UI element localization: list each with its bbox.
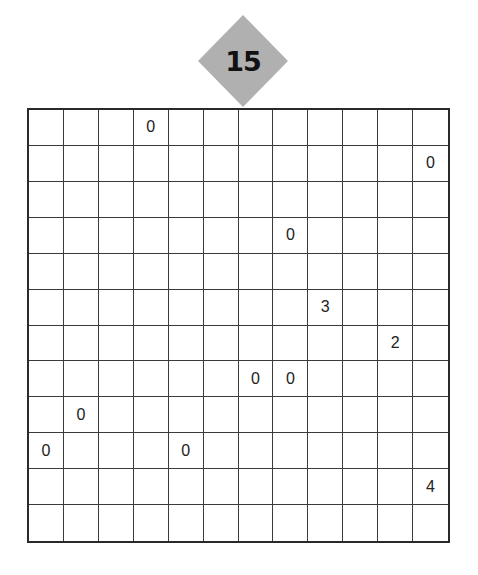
grid-cell[interactable]: [169, 254, 204, 290]
grid-cell[interactable]: [204, 254, 239, 290]
grid-cell[interactable]: [204, 397, 239, 433]
grid-cell[interactable]: [413, 182, 448, 218]
grid-cell[interactable]: [29, 254, 64, 290]
grid-cell[interactable]: [273, 469, 308, 505]
grid-cell[interactable]: [413, 505, 448, 541]
grid-cell[interactable]: [64, 326, 99, 362]
grid-cell[interactable]: [134, 146, 169, 182]
grid-cell[interactable]: [273, 254, 308, 290]
grid-cell[interactable]: [308, 110, 343, 146]
grid-cell[interactable]: [413, 218, 448, 254]
grid-cell[interactable]: [204, 290, 239, 326]
grid-cell[interactable]: [134, 254, 169, 290]
grid-cell[interactable]: [64, 433, 99, 469]
grid-cell[interactable]: [99, 326, 134, 362]
grid-cell[interactable]: [413, 397, 448, 433]
grid-cell[interactable]: [413, 290, 448, 326]
grid-cell[interactable]: [239, 326, 274, 362]
grid-cell[interactable]: [378, 254, 413, 290]
grid-cell[interactable]: [239, 146, 274, 182]
grid-cell[interactable]: 0: [169, 433, 204, 469]
grid-cell[interactable]: 0: [134, 110, 169, 146]
grid-cell[interactable]: [343, 326, 378, 362]
grid-cell[interactable]: [273, 110, 308, 146]
grid-cell[interactable]: [134, 182, 169, 218]
grid-cell[interactable]: [343, 254, 378, 290]
grid-cell[interactable]: [134, 505, 169, 541]
grid-cell[interactable]: [64, 182, 99, 218]
grid-cell[interactable]: [378, 182, 413, 218]
grid-cell[interactable]: [378, 469, 413, 505]
grid-cell[interactable]: [99, 361, 134, 397]
grid-cell[interactable]: [273, 326, 308, 362]
grid-cell[interactable]: [343, 433, 378, 469]
grid-cell[interactable]: [413, 361, 448, 397]
grid-cell[interactable]: [204, 326, 239, 362]
grid-cell[interactable]: 0: [273, 218, 308, 254]
grid-cell[interactable]: [378, 397, 413, 433]
grid-cell[interactable]: [29, 218, 64, 254]
grid-cell[interactable]: [343, 397, 378, 433]
grid-cell[interactable]: [204, 182, 239, 218]
grid-cell[interactable]: 0: [29, 433, 64, 469]
grid-cell[interactable]: [204, 110, 239, 146]
grid-cell[interactable]: [169, 218, 204, 254]
grid-cell[interactable]: [239, 218, 274, 254]
grid-cell[interactable]: [29, 361, 64, 397]
grid-cell[interactable]: [134, 361, 169, 397]
grid-cell[interactable]: [134, 433, 169, 469]
grid-cell[interactable]: [99, 397, 134, 433]
grid-cell[interactable]: 0: [273, 361, 308, 397]
grid-cell[interactable]: [308, 505, 343, 541]
grid-cell[interactable]: [413, 433, 448, 469]
grid-cell[interactable]: [378, 290, 413, 326]
grid-cell[interactable]: [343, 146, 378, 182]
grid-cell[interactable]: [99, 290, 134, 326]
grid-cell[interactable]: [343, 218, 378, 254]
grid-cell[interactable]: [64, 146, 99, 182]
grid-cell[interactable]: [343, 182, 378, 218]
grid-cell[interactable]: [273, 182, 308, 218]
grid-cell[interactable]: [308, 182, 343, 218]
grid-cell[interactable]: [64, 290, 99, 326]
grid-cell[interactable]: [308, 254, 343, 290]
grid-cell[interactable]: [239, 254, 274, 290]
grid-cell[interactable]: [308, 469, 343, 505]
grid-cell[interactable]: [413, 254, 448, 290]
grid-cell[interactable]: [99, 146, 134, 182]
grid-cell[interactable]: [134, 469, 169, 505]
grid-cell[interactable]: [273, 290, 308, 326]
grid-cell[interactable]: [273, 433, 308, 469]
grid-cell[interactable]: [378, 361, 413, 397]
grid-cell[interactable]: 2: [378, 326, 413, 362]
grid-cell[interactable]: [134, 397, 169, 433]
grid-cell[interactable]: [64, 218, 99, 254]
grid-cell[interactable]: [29, 397, 64, 433]
grid-cell[interactable]: [99, 505, 134, 541]
grid-cell[interactable]: [29, 326, 64, 362]
grid-cell[interactable]: [29, 146, 64, 182]
grid-cell[interactable]: [308, 146, 343, 182]
grid-cell[interactable]: [308, 218, 343, 254]
grid-cell[interactable]: [169, 469, 204, 505]
grid-cell[interactable]: [378, 146, 413, 182]
grid-cell[interactable]: [239, 290, 274, 326]
grid-cell[interactable]: [204, 469, 239, 505]
grid-cell[interactable]: [64, 254, 99, 290]
grid-cell[interactable]: [169, 505, 204, 541]
grid-cell[interactable]: [378, 218, 413, 254]
grid-cell[interactable]: [29, 182, 64, 218]
grid-cell[interactable]: [169, 361, 204, 397]
grid-cell[interactable]: [169, 146, 204, 182]
grid-cell[interactable]: [64, 361, 99, 397]
grid-cell[interactable]: [343, 361, 378, 397]
grid-cell[interactable]: [378, 505, 413, 541]
grid-cell[interactable]: [343, 110, 378, 146]
grid-cell[interactable]: [204, 218, 239, 254]
grid-cell[interactable]: [29, 110, 64, 146]
grid-cell[interactable]: [99, 433, 134, 469]
grid-cell[interactable]: [273, 505, 308, 541]
grid-cell[interactable]: [343, 505, 378, 541]
grid-cell[interactable]: [29, 505, 64, 541]
grid-cell[interactable]: [204, 505, 239, 541]
